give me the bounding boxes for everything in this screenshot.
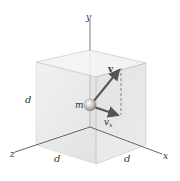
cube-left-face [36,62,96,164]
particle-sphere [84,99,96,111]
side-length-left-label: d [25,94,31,105]
velocity-label: v [107,64,114,74]
z-axis-label: z [9,149,15,159]
x-axis-label: x [163,151,168,161]
side-length-bottom-front-label: d [54,153,60,164]
particle-in-box-diagram: y z x m v vx d d d [0,0,180,181]
y-axis-label: y [85,12,92,22]
mass-label: m [75,100,84,110]
side-length-bottom-right-label: d [124,153,130,164]
